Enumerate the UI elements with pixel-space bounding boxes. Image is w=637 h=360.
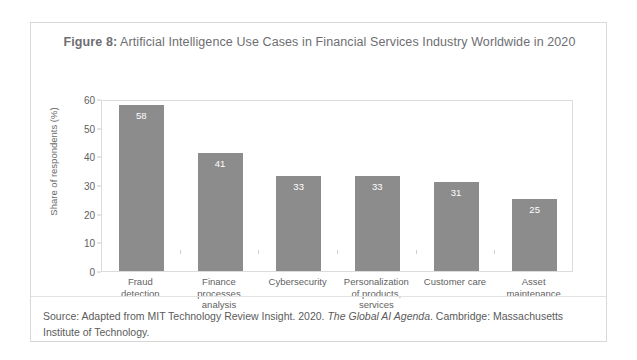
y-axis-tick-40: 40	[69, 152, 95, 163]
plot-area: 584133333125	[101, 100, 573, 272]
bar-value-label: 33	[276, 181, 321, 192]
x-axis-category-line: Cybersecurity	[258, 276, 337, 288]
bar-0[interactable]: 58	[119, 105, 164, 271]
bar-value-label: 31	[434, 187, 479, 198]
y-axis-tick-20: 20	[69, 209, 95, 220]
x-axis-category-2: Cybersecurity	[258, 276, 337, 288]
x-axis-tick-mark	[258, 250, 259, 254]
chart-region: Share of respondents (%) 0102030405060 5…	[31, 78, 608, 293]
x-axis-category-4: Customer care	[416, 276, 495, 288]
x-axis-category-line: Finance	[180, 276, 259, 288]
y-axis-tick-mark	[97, 186, 101, 187]
y-axis-tick-0: 0	[69, 267, 95, 278]
bar-value-label: 25	[512, 204, 557, 215]
y-axis-tick-mark	[97, 157, 101, 158]
figure-number-label: Figure 8:	[64, 35, 118, 49]
source-prefix: Source: Adapted from MIT Technology Revi…	[43, 310, 327, 322]
x-axis-tick-mark	[494, 250, 495, 254]
bar-3[interactable]: 33	[355, 176, 400, 271]
y-axis-tick-30: 30	[69, 181, 95, 192]
bar-value-label: 41	[198, 158, 243, 169]
x-axis-tick-mark	[416, 250, 417, 254]
figure-title: Figure 8: Artificial Intelligence Use Ca…	[49, 33, 590, 52]
figure-title-text: Artificial Intelligence Use Cases in Fin…	[117, 35, 575, 49]
y-axis-tick-mark	[97, 243, 101, 244]
x-axis-category-line: Asset	[494, 276, 573, 288]
x-axis-category-line: maintenance	[494, 288, 573, 300]
x-axis-category-line: Personalization	[337, 276, 416, 288]
x-axis-category-line: processes	[180, 288, 259, 300]
x-axis-category-1: Financeprocessesanalysis	[180, 276, 259, 311]
y-axis-tick-10: 10	[69, 238, 95, 249]
bar-2[interactable]: 33	[276, 176, 321, 271]
y-axis-tick-60: 60	[69, 95, 95, 106]
y-axis-tick-mark	[97, 214, 101, 215]
y-axis-tick-mark	[97, 128, 101, 129]
bar-value-label: 58	[119, 110, 164, 121]
y-axis-tick-labels: 0102030405060	[69, 100, 95, 272]
x-axis-category-line: of products,	[337, 288, 416, 300]
x-axis-tick-mark	[180, 250, 181, 254]
bar-5[interactable]: 25	[512, 199, 557, 271]
y-axis-tick-mark	[97, 100, 101, 101]
x-axis-category-3: Personalizationof products,services	[337, 276, 416, 311]
x-axis-category-line: detection	[101, 288, 180, 300]
figure-container: Figure 8: Artificial Intelligence Use Ca…	[30, 22, 607, 342]
bar-value-label: 33	[355, 181, 400, 192]
source-divider	[31, 296, 606, 297]
x-axis-category-line: Fraud	[101, 276, 180, 288]
bar-4[interactable]: 31	[434, 182, 479, 271]
source-publication-title: The Global AI Agenda	[327, 310, 430, 322]
y-axis-tick-mark	[97, 272, 101, 273]
source-note: Source: Adapted from MIT Technology Revi…	[43, 308, 593, 340]
y-axis-title: Share of respondents (%)	[48, 102, 59, 222]
x-axis-category-line: Customer care	[416, 276, 495, 288]
bar-1[interactable]: 41	[198, 153, 243, 271]
x-axis-tick-mark	[337, 250, 338, 254]
y-axis-tick-50: 50	[69, 123, 95, 134]
